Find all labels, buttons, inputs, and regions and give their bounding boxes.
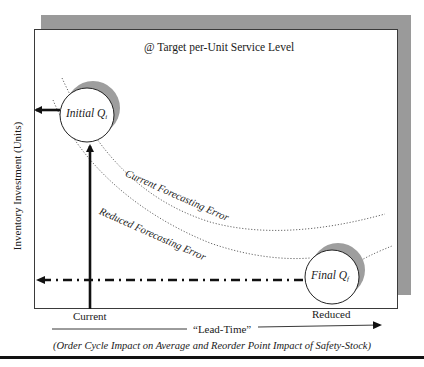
final-q-label: Final Qf xyxy=(311,269,349,283)
final-q-text: Final Q xyxy=(311,269,347,281)
x-tick-current: Current xyxy=(73,310,107,322)
initial-q-label: Initial Qi xyxy=(66,107,107,121)
x-axis-label: “Lead-Time” xyxy=(190,323,254,335)
service-level-note: @ Target per-Unit Service Level xyxy=(144,41,294,53)
final-arrowhead xyxy=(36,276,45,284)
x-tick-reduced: Reduced xyxy=(312,308,350,320)
initial-q-subscript: i xyxy=(105,113,107,121)
final-q-subscript: f xyxy=(347,275,349,283)
figure-caption: (Order Cycle Impact on Average and Reord… xyxy=(0,340,424,351)
leadtime-axis-line-right xyxy=(258,325,380,327)
bottom-rule xyxy=(0,356,424,359)
initial-q-text: Initial Q xyxy=(66,107,105,119)
diagram-canvas xyxy=(0,0,424,367)
reduced-error-curve-tail xyxy=(358,246,392,262)
y-axis-label: Inventory Investment (Units) xyxy=(11,122,23,250)
